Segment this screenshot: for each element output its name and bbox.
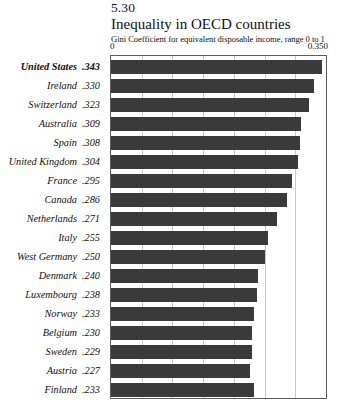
bar-row (111, 286, 326, 305)
figure-number: 5.30 (111, 1, 349, 15)
category-name: Australia (39, 118, 77, 130)
figure-title: Inequality in OECD countries (111, 16, 349, 33)
bar-row (111, 77, 326, 96)
category-value: .309 (82, 118, 105, 130)
bar (111, 60, 322, 74)
category-label-row: West Germany.250 (0, 247, 105, 266)
category-label-row: Netherlands.271 (0, 209, 105, 228)
category-value: .343 (82, 61, 105, 73)
bar (111, 98, 309, 112)
category-name: Sweden (46, 346, 77, 358)
category-label-row: United Kingdom.304 (0, 152, 105, 171)
category-name: Italy (58, 232, 77, 244)
category-label-row: Canada.286 (0, 190, 105, 209)
bar (111, 174, 292, 188)
category-value: .323 (82, 99, 105, 111)
category-label-row: Belgium.230 (0, 323, 105, 342)
category-value: .250 (82, 251, 105, 263)
category-label-row: Norway.233 (0, 304, 105, 323)
category-value: .308 (82, 137, 105, 149)
category-label-row: United States.343 (0, 57, 105, 76)
category-value: .229 (82, 346, 105, 358)
figure-header: 5.30 Inequality in OECD countries Gini C… (111, 1, 349, 45)
category-value: .295 (82, 175, 105, 187)
category-label-row: Australia.309 (0, 114, 105, 133)
bar-row (111, 362, 326, 381)
bar-series (111, 56, 326, 398)
bar (111, 136, 300, 150)
category-name: Ireland (47, 80, 77, 92)
category-label-column: United States.343Ireland.330Switzerland.… (0, 55, 105, 399)
category-label-row: Switzerland.323 (0, 95, 105, 114)
category-name: Belgium (43, 327, 77, 339)
category-label-row: Ireland.330 (0, 76, 105, 95)
bar-row (111, 343, 326, 362)
bar (111, 117, 301, 131)
category-value: .233 (82, 308, 105, 320)
bar (111, 231, 268, 245)
category-name: Spain (54, 137, 77, 149)
category-value: .330 (82, 80, 105, 92)
bar-row (111, 115, 326, 134)
category-label-row: Sweden.229 (0, 342, 105, 361)
category-label-row: Spain.308 (0, 133, 105, 152)
category-name: Austria (47, 365, 77, 377)
category-label-row: Finland.233 (0, 380, 105, 399)
bar-row (111, 210, 326, 229)
bar (111, 307, 254, 321)
bar-row (111, 172, 326, 191)
category-value: .227 (82, 365, 105, 377)
bar (111, 250, 265, 264)
category-value: .304 (82, 156, 105, 168)
category-name: Norway (44, 308, 77, 320)
category-name: West Germany (17, 251, 77, 263)
category-name: Finland (44, 384, 77, 396)
bar (111, 155, 298, 169)
bar (111, 326, 252, 340)
category-name: Canada (44, 194, 77, 206)
category-name: United States (21, 61, 77, 73)
bar-row (111, 324, 326, 343)
category-value: .255 (82, 232, 105, 244)
bar (111, 79, 314, 93)
category-name: Switzerland (28, 99, 77, 111)
category-value: .230 (82, 327, 105, 339)
category-value: .271 (82, 213, 105, 225)
bar (111, 212, 277, 226)
x-axis-labels: 0 0.350 (110, 41, 328, 53)
plot-area (110, 55, 327, 399)
category-name: United Kingdom (9, 156, 77, 168)
bar-row (111, 305, 326, 324)
bar (111, 345, 252, 359)
bar-row (111, 191, 326, 210)
category-value: .240 (82, 270, 105, 282)
x-axis-max-label: 0.350 (308, 41, 328, 52)
category-value: .238 (82, 289, 105, 301)
bar (111, 193, 287, 207)
figure-container: 5.30 Inequality in OECD countries Gini C… (0, 0, 349, 405)
bar (111, 288, 257, 302)
category-name: Denmark (39, 270, 77, 282)
bar-row (111, 229, 326, 248)
category-value: .233 (82, 384, 105, 396)
category-name: Luxembourg (25, 289, 77, 301)
bar (111, 364, 250, 378)
category-label-row: Denmark.240 (0, 266, 105, 285)
bar (111, 269, 258, 283)
category-name: Netherlands (27, 213, 77, 225)
category-label-row: Luxembourg.238 (0, 285, 105, 304)
bar-row (111, 96, 326, 115)
bar-row (111, 134, 326, 153)
bar (111, 383, 254, 397)
bar-row (111, 381, 326, 399)
x-axis-min-label: 0 (110, 41, 115, 52)
bar-row (111, 248, 326, 267)
category-label-row: France.295 (0, 171, 105, 190)
bar-row (111, 58, 326, 77)
category-name: France (47, 175, 77, 187)
category-value: .286 (82, 194, 105, 206)
category-label-row: Austria.227 (0, 361, 105, 380)
category-label-row: Italy.255 (0, 228, 105, 247)
bar-row (111, 153, 326, 172)
bar-row (111, 267, 326, 286)
